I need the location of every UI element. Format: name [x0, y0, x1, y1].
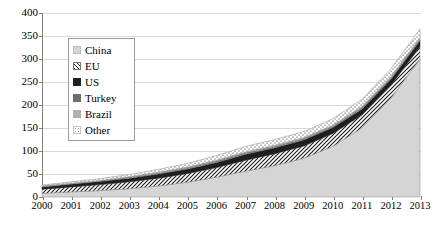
- area-series-group: [0, 0, 438, 232]
- legend-swatch-icon: [73, 78, 81, 86]
- legend-item-label: US: [85, 76, 99, 88]
- legend-item-label: Turkey: [85, 92, 116, 104]
- legend-item-label: Brazil: [85, 108, 112, 120]
- legend-swatch-icon: [73, 94, 81, 102]
- legend-item-eu[interactable]: EU: [73, 58, 134, 74]
- legend-swatch-icon: [73, 126, 81, 134]
- legend-swatch-icon: [73, 110, 81, 118]
- legend-item-label: China: [85, 44, 111, 56]
- x-axis-tick-label: 2013: [403, 200, 437, 212]
- stacked-area-chart: 050100150200250300350400: [0, 0, 438, 232]
- legend-item-china[interactable]: China: [73, 42, 134, 58]
- legend-item-label: EU: [85, 60, 100, 72]
- x-axis-labels: 2000200120022003200420052006200720082009…: [0, 200, 438, 220]
- legend-item-us[interactable]: US: [73, 74, 134, 90]
- legend-item-other[interactable]: Other: [73, 122, 134, 138]
- chart-legend: ChinaEUUSTurkeyBrazilOther: [68, 38, 135, 141]
- legend-item-label: Other: [85, 124, 110, 136]
- legend-item-brazil[interactable]: Brazil: [73, 106, 134, 122]
- legend-swatch-icon: [73, 62, 81, 70]
- legend-swatch-icon: [73, 46, 81, 54]
- legend-item-turkey[interactable]: Turkey: [73, 90, 134, 106]
